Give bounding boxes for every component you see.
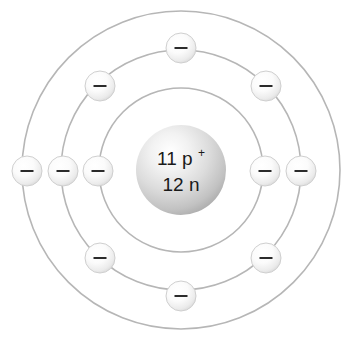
electron-shell2-bottom <box>166 281 196 311</box>
electron-shell2-upper-left <box>85 71 115 101</box>
minus-icon <box>260 85 273 87</box>
electron-shell1-right <box>250 156 280 186</box>
minus-icon <box>92 170 105 172</box>
electron-shell1-left <box>83 156 113 186</box>
nucleus-group: 11 p +12 n <box>136 125 226 215</box>
minus-icon <box>94 257 107 259</box>
bohr-atom-diagram: 11 p +12 n <box>0 0 353 345</box>
nucleus-proton-label: 11 p + <box>157 146 205 169</box>
electron-shell2-right <box>286 156 316 186</box>
minus-icon <box>260 257 273 259</box>
nucleus-sphere <box>136 125 226 215</box>
nucleus-proton-charge: + <box>198 146 205 160</box>
minus-icon <box>21 170 34 172</box>
minus-icon <box>295 170 308 172</box>
nucleus-neutron-label: 12 n <box>163 174 200 195</box>
electron-shell2-top <box>166 33 196 63</box>
minus-icon <box>175 47 188 49</box>
electron-shell2-lower-right <box>251 243 281 273</box>
minus-icon <box>175 295 188 297</box>
electron-shell2-lower-left <box>85 243 115 273</box>
atom-diagram-canvas: 11 p +12 n <box>0 0 353 345</box>
minus-icon <box>57 170 70 172</box>
electron-shell3-left <box>12 156 42 186</box>
electron-shell2-left <box>48 156 78 186</box>
minus-icon <box>259 170 272 172</box>
electron-shell2-upper-right <box>251 71 281 101</box>
minus-icon <box>94 85 107 87</box>
